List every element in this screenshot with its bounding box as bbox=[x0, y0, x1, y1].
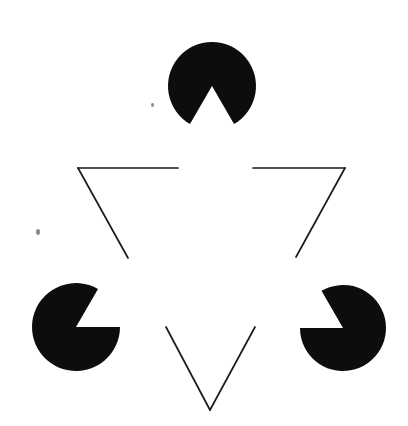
illusion-figure bbox=[0, 0, 408, 426]
kanizsa-figure-canvas bbox=[0, 0, 408, 426]
